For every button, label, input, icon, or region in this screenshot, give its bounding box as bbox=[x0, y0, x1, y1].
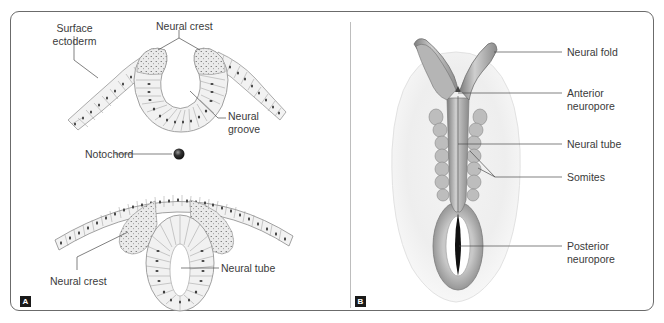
label-neural-tube-b: Neural tube bbox=[567, 138, 621, 151]
label-neural-groove-line1: Neural bbox=[228, 110, 260, 123]
label-neural-groove-line2: groove bbox=[228, 123, 260, 136]
label-neural-fold: Neural fold bbox=[567, 46, 618, 59]
label-neural-tube-a: Neural tube bbox=[221, 262, 275, 275]
label-posterior-neuropore-line1: Posterior bbox=[567, 240, 615, 253]
label-neural-crest-top: Neural crest bbox=[156, 20, 213, 33]
label-surface-ectoderm-line1: Surface bbox=[52, 22, 97, 35]
label-anterior-neuropore: Anterior neuropore bbox=[567, 87, 615, 112]
label-somites: Somites bbox=[567, 171, 605, 184]
label-surface-ectoderm-line2: ectoderm bbox=[52, 35, 97, 48]
label-anterior-neuropore-line2: neuropore bbox=[567, 100, 615, 113]
neural-groove-shape bbox=[134, 48, 228, 132]
notochord bbox=[174, 149, 185, 160]
label-neural-crest-bottom: Neural crest bbox=[50, 275, 107, 288]
panel-badge-b: B bbox=[355, 296, 366, 307]
label-posterior-neuropore-line2: neuropore bbox=[567, 253, 615, 266]
label-anterior-neuropore-line1: Anterior bbox=[567, 87, 615, 100]
label-posterior-neuropore: Posterior neuropore bbox=[567, 240, 615, 265]
panel-badge-a: A bbox=[20, 296, 31, 307]
label-neural-groove: Neural groove bbox=[228, 110, 260, 135]
label-surface-ectoderm: Surface ectoderm bbox=[52, 22, 97, 47]
label-notochord: Notochord bbox=[85, 148, 133, 161]
